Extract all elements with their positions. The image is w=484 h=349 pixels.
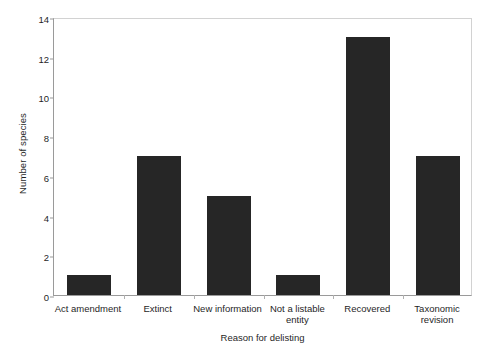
- plot-area: 02468101214: [53, 18, 472, 296]
- bar-extinct[interactable]: [137, 156, 181, 295]
- x-axis-tick-label: Recovered: [332, 303, 402, 314]
- y-axis-tick-mark: [50, 98, 54, 99]
- y-axis-tick-mark: [50, 217, 54, 218]
- y-axis-tick-label: 8: [44, 133, 49, 144]
- y-axis-tick-mark: [50, 257, 54, 258]
- y-axis-tick-label: 0: [44, 292, 49, 303]
- y-axis-tick-label: 4: [44, 212, 49, 223]
- x-axis-tick-label: Act amendment: [53, 303, 123, 314]
- x-axis-tick-mark: [124, 295, 125, 299]
- bar-act-amendment[interactable]: [67, 275, 111, 295]
- y-axis-tick-label: 14: [38, 14, 49, 25]
- x-axis-tick-label: New information: [193, 303, 263, 314]
- y-axis-tick-mark: [50, 19, 54, 20]
- y-axis-tick-label: 12: [38, 53, 49, 64]
- x-axis-tick-label: Not a listable entity: [263, 303, 333, 325]
- x-axis-title: Reason for delisting: [53, 332, 472, 343]
- x-axis-tick-mark: [264, 295, 265, 299]
- y-axis-tick-mark: [50, 177, 54, 178]
- bar-not-a-listable-entity[interactable]: [276, 275, 320, 295]
- bar-chart-figure: Number of species 02468101214 Reason for…: [0, 0, 484, 349]
- bar-taxonomic-revision[interactable]: [416, 156, 460, 295]
- y-axis-tick-mark: [50, 58, 54, 59]
- y-axis-tick-label: 2: [44, 252, 49, 263]
- y-axis-tick-label: 10: [38, 93, 49, 104]
- y-axis-tick-label: 6: [44, 172, 49, 183]
- y-axis-tick-mark: [50, 297, 54, 298]
- bar-new-information[interactable]: [207, 196, 251, 295]
- bar-recovered[interactable]: [346, 37, 390, 295]
- y-axis-tick-mark: [50, 138, 54, 139]
- y-axis-title: Number of species: [17, 74, 28, 234]
- x-axis-tick-label: Extinct: [123, 303, 193, 314]
- x-axis-tick-label: Taxonomic revision: [402, 303, 472, 325]
- x-axis-tick-mark: [194, 295, 195, 299]
- x-axis-tick-mark: [403, 295, 404, 299]
- x-axis-tick-mark: [333, 295, 334, 299]
